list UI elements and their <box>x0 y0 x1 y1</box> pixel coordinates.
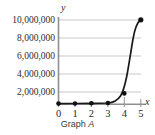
x-tick-label-5: 5 <box>134 109 148 120</box>
x-tick-label-1: 1 <box>68 109 82 120</box>
y-tick-label-2000000: 2,000,000 <box>17 88 55 98</box>
x-tick-label-2: 2 <box>84 109 98 120</box>
x-axis-label: x <box>145 97 149 107</box>
y-tick-label-6000000: 6,000,000 <box>17 52 55 62</box>
gridlines <box>58 20 141 92</box>
data-point-x5 <box>138 17 143 22</box>
data-point-x3 <box>106 101 111 106</box>
graph-a-figure: 10,000,000 8,000,000 6,000,000 4,000,000… <box>0 0 155 135</box>
y-tick-label-4000000: 4,000,000 <box>17 70 55 80</box>
data-point-x4 <box>122 91 127 96</box>
figure-caption-identifier: A <box>88 119 94 129</box>
data-point-x0 <box>56 101 61 106</box>
figure-caption-prefix: Graph <box>61 119 86 129</box>
y-tick-label-8000000: 8,000,000 <box>17 34 55 44</box>
data-point-x1 <box>73 101 78 106</box>
exponential-curve <box>59 20 141 104</box>
figure-caption: Graph A <box>0 120 155 129</box>
x-tick-label-0: 0 <box>52 109 66 120</box>
x-tick-label-3: 3 <box>101 109 115 120</box>
x-tick-label-4: 4 <box>117 109 131 120</box>
x-axis-ticks <box>59 97 141 107</box>
y-axis-label: y <box>61 3 65 13</box>
data-points <box>56 17 143 106</box>
y-tick-label-10000000: 10,000,000 <box>12 16 55 26</box>
data-point-x2 <box>89 101 94 106</box>
